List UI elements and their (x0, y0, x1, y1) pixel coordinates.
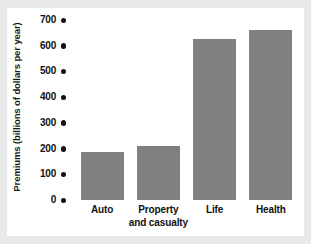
y-axis-tick: 300 (0, 117, 68, 129)
x-axis-label-line: Health (237, 204, 305, 217)
y-axis-tick-dot-icon (61, 69, 67, 75)
y-axis-tick-label: 0 (51, 194, 56, 206)
y-axis-tick-dot-icon (61, 43, 67, 49)
y-axis-tick: 500 (0, 65, 68, 77)
y-axis-tick-dot-icon (61, 120, 67, 126)
bar (81, 152, 124, 200)
y-axis-tick-label: 200 (40, 143, 56, 155)
x-axis-label-line: and casualty (124, 217, 192, 230)
y-axis-tick: 600 (0, 40, 68, 52)
y-axis-tick-label: 600 (40, 40, 56, 52)
y-axis-tick-dot-icon (61, 18, 67, 24)
y-axis-tick: 200 (0, 143, 68, 155)
y-axis-tick-label: 300 (40, 117, 56, 129)
y-axis-tick-label: 500 (40, 65, 56, 77)
y-axis-tick-label: 700 (40, 14, 56, 26)
y-axis-tick-dot-icon (61, 198, 67, 204)
x-axis-label: Health (237, 204, 305, 217)
y-axis-tick: 400 (0, 91, 68, 103)
y-axis-tick: 700 (0, 14, 68, 26)
y-axis-tick-label: 100 (40, 168, 56, 180)
plot-area: 0100200300400500600700 AutoPropertyand c… (0, 0, 311, 244)
y-axis-tick-dot-icon (61, 146, 67, 152)
y-axis-tick: 0 (0, 194, 68, 206)
bar (249, 30, 292, 200)
y-axis-tick-label: 400 (40, 91, 56, 103)
bar (193, 39, 236, 200)
y-axis-tick-dot-icon (61, 95, 67, 101)
y-axis-tick-dot-icon (61, 172, 67, 178)
y-axis-tick: 100 (0, 168, 68, 180)
bar (137, 146, 180, 200)
